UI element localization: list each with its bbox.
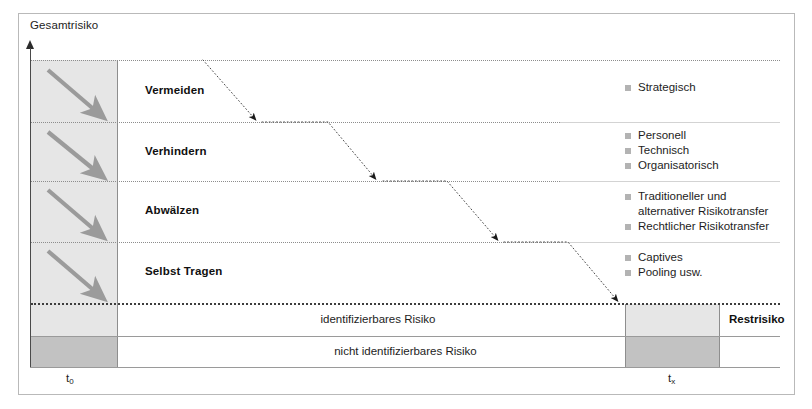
legend-label: Pooling usw. [638, 265, 703, 280]
legend-label-continuation: alternativer Risikotransfer [638, 204, 768, 219]
bullet-square-icon [625, 255, 631, 261]
legend-item: Organisatorisch [625, 158, 719, 173]
row-label-abwaelzen: Abwälzen [145, 204, 199, 216]
y-axis-title: Gesamtrisiko [30, 19, 98, 31]
row-label-vermeiden: Vermeiden [145, 84, 205, 96]
legend-separator-1 [560, 122, 780, 123]
legend-item: Traditioneller und alternativer Risikotr… [625, 189, 769, 219]
risk-label-identifiable: identifizierbares Risiko [31, 313, 725, 325]
legend-item: Personell [625, 128, 719, 143]
legend-item: Pooling usw. [625, 265, 703, 280]
row-label-selbst-tragen: Selbst Tragen [145, 265, 222, 277]
bullet-square-icon [625, 194, 631, 200]
t0-column-identifiable [31, 60, 118, 336]
legend-label: Strategisch [638, 80, 696, 95]
band-separator-top [31, 60, 780, 61]
legend-label: Captives [638, 250, 683, 265]
legend-group-vermeiden: Strategisch [625, 80, 696, 95]
legend-group-abwaelzen: Traditioneller und alternativer Risikotr… [625, 189, 769, 234]
legend-group-selbst-tragen: Captives Pooling usw. [625, 250, 703, 280]
legend-label: Technisch [638, 143, 689, 158]
legend-group-verhindern: Personell Technisch Organisatorisch [625, 128, 719, 173]
legend-item: Rechtlicher Risikotransfer [625, 219, 769, 234]
risk-band-separator [31, 336, 780, 337]
legend-label: Personell [638, 128, 686, 143]
legend-item: Technisch [625, 143, 719, 158]
residual-risk-label: Restrisiko [729, 313, 785, 325]
row-label-verhindern: Verhindern [145, 145, 207, 157]
legend-separator-3 [560, 242, 780, 243]
legend-label: Organisatorisch [638, 158, 719, 173]
legend-separator-2 [560, 181, 780, 182]
bullet-square-icon [625, 270, 631, 276]
bullet-square-icon [625, 163, 631, 169]
x-tick-t0: t0 [66, 372, 74, 384]
legend-label: Rechtlicher Risikotransfer [638, 219, 769, 234]
legend-item: Captives [625, 250, 703, 265]
legend-label: Traditioneller und [638, 190, 726, 202]
bullet-square-icon [625, 85, 631, 91]
risk-management-diagram: Gesamtrisiko Vermeiden Verhindern Abwälz… [0, 0, 812, 409]
x-tick-tx: tx [668, 372, 675, 384]
bullet-square-icon [625, 148, 631, 154]
legend-item: Strategisch [625, 80, 696, 95]
band-separator-baseline [31, 303, 780, 305]
risk-label-unidentifiable: nicht identifizierbares Risiko [31, 345, 780, 357]
bullet-square-icon [625, 224, 631, 230]
bullet-square-icon [625, 133, 631, 139]
x-axis-line [30, 367, 780, 368]
legend-label-wrap: Traditioneller und alternativer Risikotr… [638, 189, 768, 219]
